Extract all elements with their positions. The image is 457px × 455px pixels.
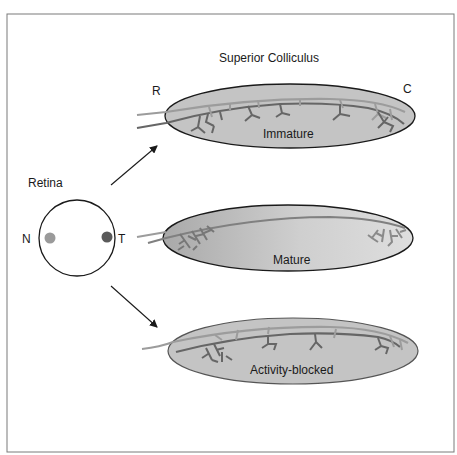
panel-mature: Mature — [137, 205, 413, 271]
retina: Retina N T — [22, 176, 126, 276]
temporal-label: T — [118, 232, 126, 246]
panel-activity-blocked: Activity-blocked — [142, 318, 418, 384]
nasal-label: N — [22, 232, 31, 246]
retinotopic-map-diagram: Superior Colliculus R C Retina N T Immat… — [0, 0, 457, 455]
nasal-axon — [137, 232, 166, 237]
diagram-title: Superior Colliculus — [219, 51, 319, 65]
panel-label-mature: Mature — [273, 253, 311, 267]
nasal-dot — [45, 233, 56, 244]
rostral-label: R — [152, 84, 161, 98]
panel-label-activity-blocked: Activity-blocked — [250, 363, 333, 377]
panel-label-immature: Immature — [263, 127, 314, 141]
caudal-label: C — [403, 82, 412, 96]
arrow-to-activity-blocked — [111, 286, 157, 327]
retina-label: Retina — [28, 176, 63, 190]
panel-immature: Immature — [137, 84, 415, 148]
arrow-to-immature — [111, 146, 157, 185]
temporal-dot — [102, 232, 113, 243]
